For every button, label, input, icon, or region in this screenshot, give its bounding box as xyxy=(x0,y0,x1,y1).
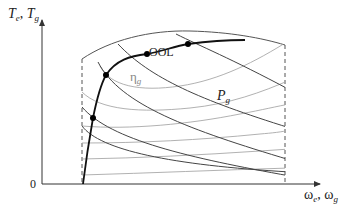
eta-sub: g xyxy=(137,76,142,86)
y-label-te: T xyxy=(8,6,16,21)
power-label: Pg xyxy=(217,89,230,105)
y-label-sep: , xyxy=(20,6,27,21)
ool-point-1 xyxy=(90,115,96,121)
efficiency-curve-4 xyxy=(82,130,290,143)
origin-label: 0 xyxy=(30,178,36,190)
y-label-tg: T xyxy=(27,6,35,21)
power-curve-1 xyxy=(176,34,290,90)
x-label-omega-e: ω xyxy=(304,187,313,202)
efficiency-curve-3 xyxy=(82,104,290,127)
power-symbol: P xyxy=(217,88,226,103)
power-curve-2 xyxy=(118,44,290,128)
torque-speed-diagram xyxy=(0,0,355,208)
power-curve-4 xyxy=(82,107,290,176)
x-label-sub-g: g xyxy=(333,194,338,204)
efficiency-curve-6 xyxy=(82,168,290,175)
power-curve-5 xyxy=(82,126,290,172)
power-sub: g xyxy=(226,95,231,105)
ool-point-2 xyxy=(103,72,109,78)
power-curve-3 xyxy=(98,62,290,160)
efficiency-label: ηg xyxy=(130,70,141,86)
eta-symbol: η xyxy=(130,69,137,84)
y-label-sub-g: g xyxy=(35,13,40,23)
ool-label: OOL xyxy=(149,46,174,58)
efficiency-curve-2 xyxy=(82,80,290,110)
power-curves xyxy=(82,34,290,176)
efficiency-curve-1 xyxy=(100,40,290,88)
x-axis-label: ωe, ωg xyxy=(304,188,338,204)
ool-point-4 xyxy=(185,41,191,47)
y-axis-label: Te, Tg xyxy=(8,7,39,23)
